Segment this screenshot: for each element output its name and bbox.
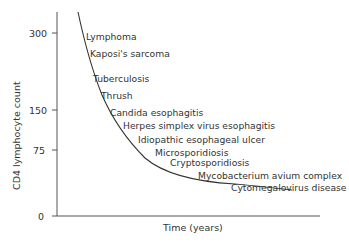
- y-axis-label: CD4 lymphocyte count: [11, 81, 22, 190]
- label-hsv-esophagitis: Herpes simplex virus esophagitis: [123, 120, 275, 131]
- tick-label-150: 150: [29, 105, 47, 116]
- tick-label-300: 300: [29, 28, 47, 39]
- label-cryptosporidiosis: Cryptosporidiosis: [170, 157, 250, 168]
- label-idiopathic-esophageal-ulcer: Idiopathic esophageal ulcer: [138, 134, 265, 145]
- label-lymphoma: Lymphoma: [86, 31, 137, 42]
- label-kaposis-sarcoma: Kaposi's sarcoma: [90, 48, 170, 59]
- label-thrush: Thrush: [100, 90, 133, 101]
- tick-label-0: 0: [38, 211, 44, 222]
- cd4-chart: 300 150 75 0 CD4 lymphocyte count Time (…: [0, 0, 349, 246]
- label-tuberculosis: Tuberculosis: [92, 73, 149, 84]
- tick-label-75: 75: [33, 145, 45, 156]
- label-cytomegalovirus-disease: Cytomegalovirus disease: [231, 182, 347, 193]
- label-candida-esophagitis: Candida esophagitis: [110, 107, 204, 118]
- x-axis-label: Time (years): [162, 222, 223, 233]
- label-mycobacterium-avium-complex: Mycobacterium avium complex: [198, 170, 343, 181]
